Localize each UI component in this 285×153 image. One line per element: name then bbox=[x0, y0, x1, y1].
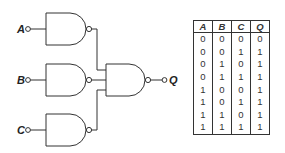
cell: 1 bbox=[232, 46, 251, 59]
cell: 1 bbox=[194, 109, 213, 122]
table-row: 1 1 1 1 bbox=[194, 121, 270, 134]
cell: 1 bbox=[251, 96, 270, 109]
cell: 0 bbox=[213, 96, 232, 109]
input-terminal-c bbox=[26, 128, 31, 133]
cell: 0 bbox=[232, 33, 251, 46]
header-c: C bbox=[232, 21, 251, 33]
cell: 0 bbox=[232, 58, 251, 71]
cell: 1 bbox=[213, 109, 232, 122]
nand-gate-output bbox=[106, 64, 151, 96]
table-row: 1 0 0 1 bbox=[194, 83, 270, 96]
cell: 1 bbox=[213, 71, 232, 84]
header-a: A bbox=[194, 21, 213, 33]
header-b: B bbox=[213, 21, 232, 33]
cell: 0 bbox=[194, 58, 213, 71]
table-row: 0 1 0 1 bbox=[194, 58, 270, 71]
cell: 0 bbox=[251, 33, 270, 46]
input-label-a: A bbox=[16, 23, 25, 35]
truth-table-header: A B C Q bbox=[194, 21, 270, 33]
header-q: Q bbox=[251, 21, 270, 33]
cell: 1 bbox=[251, 109, 270, 122]
cell: 1 bbox=[194, 96, 213, 109]
cell: 0 bbox=[232, 83, 251, 96]
output-terminal-q bbox=[162, 78, 167, 83]
output-label-q: Q bbox=[169, 74, 178, 86]
input-terminal-a bbox=[26, 27, 31, 32]
table-row: 0 0 1 1 bbox=[194, 46, 270, 59]
cell: 0 bbox=[213, 83, 232, 96]
cell: 0 bbox=[232, 109, 251, 122]
cell: 1 bbox=[251, 58, 270, 71]
truth-table: A B C Q 0 0 0 0 0 0 1 1 0 1 0 1 0 1 1 1 bbox=[193, 20, 270, 135]
cell: 0 bbox=[213, 46, 232, 59]
cell: 1 bbox=[194, 83, 213, 96]
table-row: 0 0 0 0 bbox=[194, 33, 270, 46]
wire-a-to-output bbox=[92, 29, 106, 70]
cell: 1 bbox=[251, 121, 270, 134]
cell: 0 bbox=[213, 33, 232, 46]
table-row: 1 1 0 1 bbox=[194, 109, 270, 122]
nand-gate-b bbox=[46, 64, 92, 96]
table-row: 0 1 1 1 bbox=[194, 71, 270, 84]
cell: 1 bbox=[213, 121, 232, 134]
cell: 1 bbox=[251, 71, 270, 84]
cell: 1 bbox=[251, 46, 270, 59]
cell: 1 bbox=[194, 121, 213, 134]
cell: 0 bbox=[194, 33, 213, 46]
nand-gate-c bbox=[46, 114, 92, 146]
wire-c-to-output bbox=[92, 90, 106, 130]
cell: 1 bbox=[232, 96, 251, 109]
table-row: 1 0 1 1 bbox=[194, 96, 270, 109]
cell: 1 bbox=[213, 58, 232, 71]
cell: 1 bbox=[232, 71, 251, 84]
cell: 1 bbox=[232, 121, 251, 134]
cell: 0 bbox=[194, 71, 213, 84]
input-label-b: B bbox=[17, 74, 25, 86]
cell: 0 bbox=[194, 46, 213, 59]
input-terminal-b bbox=[26, 78, 31, 83]
cell: 1 bbox=[251, 83, 270, 96]
input-label-c: C bbox=[17, 124, 26, 136]
logic-circuit-diagram: A B C Q bbox=[0, 0, 190, 153]
nand-gate-a bbox=[46, 13, 92, 45]
